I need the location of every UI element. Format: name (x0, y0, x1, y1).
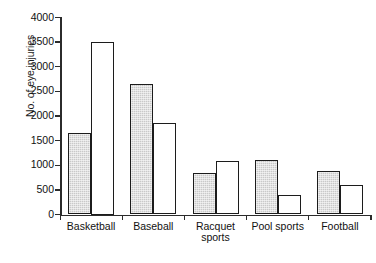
y-axis-tick-label: 3000 (20, 61, 54, 72)
y-axis-tick-label: 2500 (20, 85, 54, 96)
x-axis-category-label: Football (303, 221, 376, 233)
y-axis-tick-label: 1500 (20, 135, 54, 146)
x-axis-tick-mark (308, 215, 309, 220)
bar (317, 171, 340, 214)
bar (91, 42, 114, 214)
bar (153, 123, 176, 214)
bar (340, 185, 363, 214)
x-axis-tick-mark (60, 215, 61, 220)
y-axis-tick-label: 2000 (20, 110, 54, 121)
y-axis-tick-label: 500 (20, 184, 54, 195)
bar (193, 173, 216, 215)
y-axis-tick-label: 4000 (20, 12, 54, 23)
y-axis-tick-label: 0 (20, 209, 54, 220)
y-axis-tick-label: 1000 (20, 159, 54, 170)
x-axis-line (60, 215, 371, 217)
bar (130, 84, 153, 215)
y-axis-tick-labels: 05001000150020002500300035004000 (16, 0, 54, 263)
bar (68, 133, 91, 214)
bar (278, 195, 301, 215)
bar-chart: No. of eye injuries 05001000150020002500… (0, 0, 376, 263)
x-axis-tick-mark (184, 215, 185, 220)
x-axis-tick-mark (122, 215, 123, 220)
bar (216, 161, 239, 214)
y-axis-tick-label: 3500 (20, 36, 54, 47)
x-axis-tick-mark (370, 215, 371, 220)
bar (255, 160, 278, 214)
y-axis-line (60, 17, 62, 216)
x-axis-tick-mark (246, 215, 247, 220)
